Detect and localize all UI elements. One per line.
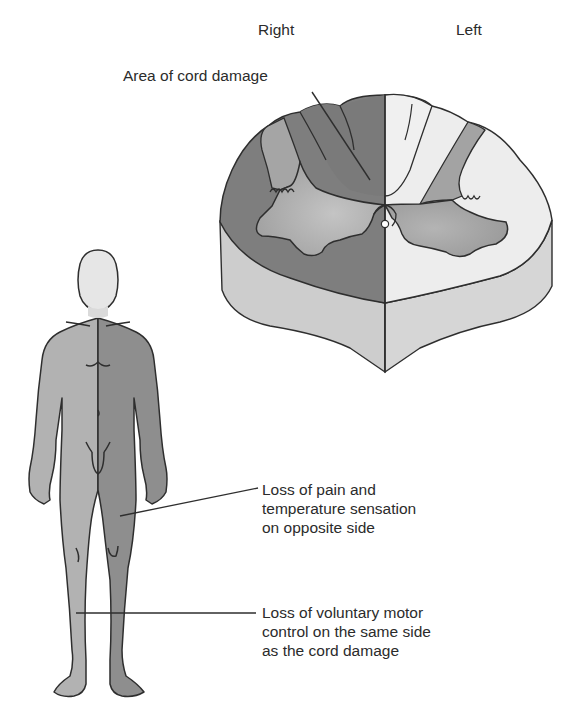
callout-line: control on the same side (262, 622, 431, 641)
motor-control-callout: Loss of voluntary motor control on the s… (262, 603, 431, 660)
callout-line: on opposite side (262, 518, 416, 537)
figure-head (78, 250, 118, 312)
pain-callout-leader (120, 488, 258, 516)
callout-line: as the cord damage (262, 641, 431, 660)
spinal-cord-cross-section (0, 0, 574, 708)
callout-line: Loss of pain and (262, 480, 416, 499)
callout-line: Loss of voluntary motor (262, 603, 431, 622)
callout-line: temperature sensation (262, 499, 416, 518)
cord-right-label: Right (258, 20, 294, 39)
pain-temperature-callout: Loss of pain and temperature sensation o… (262, 480, 416, 537)
cord-left-label: Left (456, 20, 482, 39)
human-figure (29, 250, 167, 697)
figure-left-side (98, 310, 167, 697)
central-canal (381, 220, 388, 227)
cord-damage-label: Area of cord damage (123, 66, 268, 85)
figure-right-side (29, 310, 98, 697)
